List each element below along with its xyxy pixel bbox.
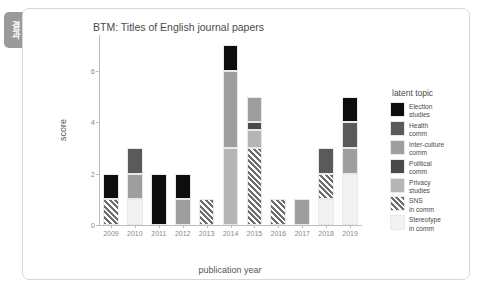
x-axis-label: publication year bbox=[198, 265, 261, 275]
x-tick-mark bbox=[254, 225, 255, 228]
legend-label: Inter-culturecomm bbox=[409, 140, 444, 158]
x-tick-mark bbox=[159, 225, 160, 228]
x-tick-label: 2018 bbox=[318, 230, 334, 237]
legend-item[interactable]: Electionstudies bbox=[390, 102, 485, 120]
y-tick-mark bbox=[96, 225, 99, 226]
bar-segment bbox=[127, 174, 143, 200]
y-tick-mark bbox=[96, 71, 99, 72]
bar-segment bbox=[199, 199, 215, 225]
legend-label: Electionstudies bbox=[409, 102, 432, 120]
x-tick-label: 2014 bbox=[223, 230, 239, 237]
x-tick-mark bbox=[111, 225, 112, 228]
bar-2019[interactable] bbox=[342, 97, 358, 225]
legend-item[interactable]: SNSin comm bbox=[390, 196, 485, 214]
bar-segment bbox=[318, 174, 334, 200]
legend-swatch bbox=[390, 215, 405, 230]
legend-item[interactable]: Healthcomm bbox=[390, 121, 485, 139]
y-tick-label: 6 bbox=[91, 66, 95, 75]
legend-item[interactable]: Politicalcomm bbox=[390, 159, 485, 177]
x-tick-label: 2012 bbox=[175, 230, 191, 237]
bar-2010[interactable] bbox=[127, 148, 143, 225]
bar-2012[interactable] bbox=[175, 174, 191, 225]
legend-label: SNSin comm bbox=[409, 196, 434, 214]
bar-segment bbox=[318, 148, 334, 174]
y-tick-mark bbox=[96, 174, 99, 175]
bar-segment bbox=[103, 174, 119, 200]
legend-label: Politicalcomm bbox=[409, 159, 432, 177]
bar-2009[interactable] bbox=[103, 174, 119, 225]
bar-segment bbox=[318, 199, 334, 225]
bar-segment bbox=[223, 148, 239, 225]
bar-segment bbox=[342, 148, 358, 174]
legend: latent topic ElectionstudiesHealthcommIn… bbox=[390, 88, 485, 234]
bar-segment bbox=[294, 199, 310, 225]
x-tick-label: 2010 bbox=[127, 230, 143, 237]
bar-segment bbox=[175, 199, 191, 225]
bar-segment bbox=[223, 71, 239, 148]
bar-segment bbox=[270, 199, 286, 225]
bar-segment bbox=[151, 174, 167, 225]
chart-card: BTM: Titles of English journal papers sc… bbox=[22, 8, 470, 280]
y-tick-label: 0 bbox=[91, 221, 95, 230]
legend-label: Healthcomm bbox=[409, 121, 428, 139]
bar-segment bbox=[223, 45, 239, 71]
bar-2015[interactable] bbox=[247, 71, 263, 225]
bar-segment bbox=[342, 122, 358, 148]
x-tick-mark bbox=[350, 225, 351, 228]
x-tick-mark bbox=[326, 225, 327, 228]
legend-swatch bbox=[390, 196, 405, 211]
y-axis-label: score bbox=[58, 119, 68, 141]
legend-item[interactable]: Stereotypein comm bbox=[390, 215, 485, 233]
bar-2014[interactable] bbox=[223, 45, 239, 225]
bar-segment bbox=[247, 130, 263, 148]
bar-segment bbox=[342, 174, 358, 225]
bar-segment bbox=[127, 199, 143, 225]
bar-2016[interactable] bbox=[270, 199, 286, 225]
side-tab-label: 결과 bbox=[10, 21, 19, 39]
bar-2018[interactable] bbox=[318, 148, 334, 225]
bar-segment bbox=[175, 174, 191, 200]
y-tick-label: 4 bbox=[91, 118, 95, 127]
x-tick-mark bbox=[207, 225, 208, 228]
x-tick-mark bbox=[278, 225, 279, 228]
bar-segment bbox=[247, 148, 263, 225]
legend-item[interactable]: Privacystudies bbox=[390, 178, 485, 196]
x-tick-label: 2017 bbox=[294, 230, 310, 237]
y-axis-line bbox=[99, 35, 100, 225]
bar-segment bbox=[342, 97, 358, 123]
bar-segment bbox=[247, 97, 263, 123]
legend-swatch bbox=[390, 121, 405, 136]
x-tick-label: 2015 bbox=[247, 230, 263, 237]
bar-segment bbox=[103, 199, 119, 225]
x-tick-mark bbox=[231, 225, 232, 228]
x-tick-label: 2013 bbox=[199, 230, 215, 237]
bar-2011[interactable] bbox=[151, 174, 167, 225]
x-tick-label: 2011 bbox=[151, 230, 166, 237]
x-tick-label: 2016 bbox=[271, 230, 287, 237]
chart-title: BTM: Titles of English journal papers bbox=[93, 21, 264, 33]
x-tick-label: 2019 bbox=[342, 230, 358, 237]
legend-label: Stereotypein comm bbox=[409, 215, 441, 233]
x-tick-mark bbox=[183, 225, 184, 228]
bar-2013[interactable] bbox=[199, 199, 215, 225]
y-tick-label: 2 bbox=[91, 169, 95, 178]
legend-swatch bbox=[390, 178, 405, 193]
legend-swatch bbox=[390, 102, 405, 117]
y-tick-mark bbox=[96, 122, 99, 123]
x-tick-mark bbox=[135, 225, 136, 228]
bar-segment bbox=[247, 122, 263, 130]
legend-label: Privacystudies bbox=[409, 178, 431, 196]
legend-item[interactable]: Inter-culturecomm bbox=[390, 140, 485, 158]
screenshot-root: 결과 BTM: Titles of English journal papers… bbox=[0, 0, 485, 293]
legend-items: ElectionstudiesHealthcommInter-cultureco… bbox=[390, 102, 485, 233]
legend-swatch bbox=[390, 159, 405, 174]
plot-area: 0246 20092010201120122013201420152016201… bbox=[99, 35, 362, 225]
x-tick-mark bbox=[302, 225, 303, 228]
bar-2017[interactable] bbox=[294, 199, 310, 225]
x-tick-label: 2009 bbox=[103, 230, 119, 237]
legend-swatch bbox=[390, 140, 405, 155]
bar-segment bbox=[127, 148, 143, 174]
legend-title: latent topic bbox=[392, 88, 485, 98]
